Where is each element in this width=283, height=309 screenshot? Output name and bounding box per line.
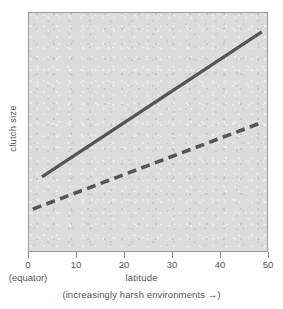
x-tick-mark xyxy=(268,252,269,258)
solid-trend-line xyxy=(42,32,262,177)
x-axis-title: latitude xyxy=(0,272,283,283)
x-tick-mark xyxy=(124,252,125,258)
x-tick-label: 40 xyxy=(200,259,240,270)
dashed-trend-line xyxy=(33,122,263,209)
x-tick-mark xyxy=(220,252,221,258)
x-tick-mark xyxy=(76,252,77,258)
x-tick-label: 30 xyxy=(152,259,192,270)
x-tick-label: 20 xyxy=(104,259,144,270)
x-axis-ticks: 01020304050 xyxy=(28,252,268,258)
clutch-size-latitude-chart: clutch size 01020304050 (equator) latitu… xyxy=(0,0,283,309)
x-tick-mark xyxy=(172,252,173,258)
x-tick-label: 0 xyxy=(8,259,48,270)
x-tick-label: 50 xyxy=(248,259,283,270)
plot-area xyxy=(28,12,268,252)
y-axis-title: clutch size xyxy=(7,69,18,189)
series-layer xyxy=(29,13,268,252)
x-tick-label: 10 xyxy=(56,259,96,270)
x-tick-mark xyxy=(28,252,29,258)
x-axis-caption: (increasingly harsh environments →) xyxy=(0,289,283,300)
